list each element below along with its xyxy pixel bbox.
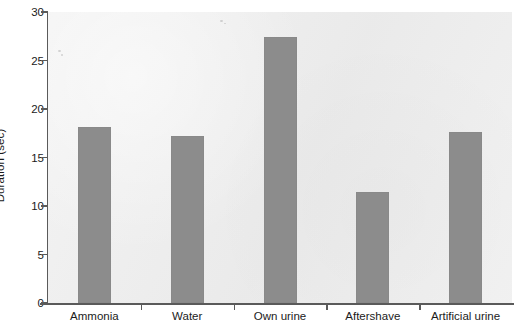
bar xyxy=(78,127,111,303)
x-axis-tick-label: Ammonia xyxy=(70,310,119,322)
bar xyxy=(171,136,204,303)
y-axis-tick-mark xyxy=(41,254,48,256)
x-axis-tick-mark xyxy=(234,304,236,310)
x-axis-tick-label: Aftershave xyxy=(345,310,400,322)
plot-area xyxy=(48,12,512,303)
bar xyxy=(449,132,482,303)
x-axis-tick-label: Artificial urine xyxy=(431,310,500,322)
bar xyxy=(264,37,297,303)
bar xyxy=(356,192,389,303)
y-axis-tick-mark xyxy=(41,157,48,159)
y-axis-tick-mark xyxy=(41,60,48,62)
y-axis-tick-labels: 051015202530 xyxy=(18,0,44,331)
x-axis-tick-label: Own urine xyxy=(254,310,306,322)
x-axis-tick-labels: AmmoniaWaterOwn urineAftershaveArtificia… xyxy=(48,310,512,328)
x-axis-tick-mark xyxy=(419,304,421,310)
y-axis-tick-mark xyxy=(41,205,48,207)
bar-chart-figure: Duration (sec) 051015202530 AmmoniaWater… xyxy=(0,0,518,331)
x-axis-tick-mark xyxy=(141,304,143,310)
y-axis-tick-mark xyxy=(41,11,48,13)
y-axis-tick-mark xyxy=(41,302,48,304)
x-axis-tick-mark xyxy=(326,304,328,310)
x-axis-line xyxy=(40,303,514,305)
x-axis-tick-label: Water xyxy=(172,310,202,322)
y-axis-tick-mark xyxy=(41,108,48,110)
